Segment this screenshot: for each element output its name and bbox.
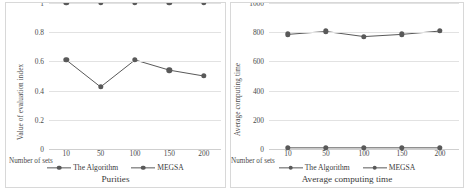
legend-average-computing-time: The AlgorithmMEGSA <box>231 163 463 172</box>
legend-marker-icon <box>47 164 71 172</box>
y-tick-label: 1000 <box>240 2 264 8</box>
y-tick-label: 400 <box>240 86 264 95</box>
y-tick-label: 0.6 <box>25 57 44 66</box>
x-axis-ticks-purities: 1050100150200 <box>49 149 221 161</box>
gridline <box>269 61 459 62</box>
gridline <box>269 3 459 4</box>
legend-marker-icon <box>279 164 303 172</box>
legend-label: The Algorithm <box>73 163 118 172</box>
series-lines-average-computing-time <box>269 3 459 149</box>
legend-marker-icon <box>363 164 387 172</box>
caption-purities: Purities <box>6 174 225 184</box>
y-tick-label: 0.2 <box>25 115 44 124</box>
gridline <box>49 32 221 33</box>
legend-marker-icon <box>131 164 155 172</box>
gridline <box>49 120 221 121</box>
y-tick-label: 0.8 <box>25 28 44 37</box>
legend-label: MEGSA <box>157 163 184 172</box>
legend-item[interactable]: MEGSA <box>131 163 184 172</box>
y-axis-ticks-average-computing-time: 02004006008001000 <box>240 3 264 149</box>
x-tick-label: 150 <box>396 149 407 158</box>
gridline <box>49 91 221 92</box>
legend-item[interactable]: The Algorithm <box>279 163 350 172</box>
y-tick-label: 1 <box>25 2 44 8</box>
y-tick-label: 800 <box>240 28 264 37</box>
plot-area-purities <box>49 3 221 149</box>
series-lines-purities <box>49 3 221 149</box>
y-tick-label: 0 <box>25 145 44 154</box>
y-tick-label: 600 <box>240 57 264 66</box>
x-tick-label: 150 <box>164 149 175 158</box>
legend-item[interactable]: MEGSA <box>363 163 416 172</box>
legend-item[interactable]: The Algorithm <box>47 163 118 172</box>
gridline <box>269 120 459 121</box>
figure-container: Value of evaluation index 00.20.40.60.81… <box>0 0 465 194</box>
x-tick-label: 50 <box>322 149 329 158</box>
x-tick-label: 200 <box>434 149 445 158</box>
x-tick-label: 10 <box>62 149 69 158</box>
plot-frame-purities: Value of evaluation index 00.20.40.60.81 <box>6 3 225 149</box>
y-axis-title-purities: Value of evaluation index <box>17 64 25 140</box>
x-tick-label: 100 <box>129 149 140 158</box>
gridline <box>269 91 459 92</box>
y-axis-ticks-purities: 00.20.40.60.81 <box>25 3 44 149</box>
chart-panel-purities: Value of evaluation index 00.20.40.60.81… <box>5 2 226 188</box>
plot-area-average-computing-time <box>269 3 459 149</box>
y-tick-label: 0 <box>240 145 264 154</box>
y-tick-label: 200 <box>240 115 264 124</box>
caption-average-computing-time: Average computing time <box>231 174 463 184</box>
chart-panel-average-computing-time: Average computing time 02004006008001000… <box>230 2 464 188</box>
x-tick-label: 100 <box>358 149 369 158</box>
legend-label: The Algorithm <box>305 163 350 172</box>
legend-label: MEGSA <box>389 163 416 172</box>
series-line <box>66 60 204 87</box>
x-axis-ticks-average-computing-time: 1050100150200 <box>269 149 459 161</box>
x-tick-label: 200 <box>198 149 209 158</box>
x-tick-label: 50 <box>97 149 104 158</box>
legend-purities: The AlgorithmMEGSA <box>6 163 225 172</box>
y-tick-label: 0.4 <box>25 86 44 95</box>
x-tick-label: 10 <box>284 149 291 158</box>
plot-frame-average-computing-time: Average computing time 02004006008001000 <box>231 3 463 149</box>
